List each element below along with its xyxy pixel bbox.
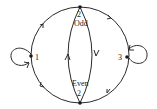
- node-even-label: Even: [72, 79, 88, 88]
- arrow-down-icon: [94, 50, 99, 56]
- arrow-up-icon: [65, 54, 70, 60]
- node-3-label: 3: [118, 53, 122, 62]
- node-even-dot: [78, 101, 82, 105]
- node-1-dot: [29, 54, 33, 58]
- node-odd-label: Odd: [74, 19, 88, 28]
- state-diagram: 2 Odd Even 2 1 3: [0, 0, 157, 109]
- node-3-dot: [125, 55, 129, 59]
- node-odd-dot: [78, 5, 82, 9]
- self-loop-3: [129, 45, 147, 63]
- node-even-number: 2: [77, 89, 81, 98]
- node-odd-number: 2: [77, 10, 81, 19]
- arrow-icon: [107, 89, 110, 93]
- node-1-label: 1: [35, 53, 39, 62]
